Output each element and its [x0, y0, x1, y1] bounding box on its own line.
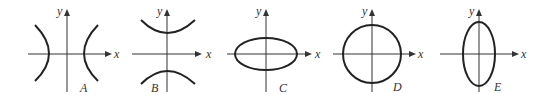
x-axis-arrow-icon [105, 51, 112, 57]
y-axis-arrow-icon [263, 9, 269, 16]
conic-sections-figure: x y A x y B x y C x y D [0, 0, 553, 100]
hyperbola-left-branch [35, 25, 49, 81]
x-axis-arrow-icon [512, 51, 519, 57]
hyperbola-right-branch [84, 25, 98, 81]
panel-label: C [279, 81, 288, 95]
x-axis-label: x [113, 47, 120, 61]
y-axis-arrow-icon [64, 9, 70, 16]
panel-label: D [392, 80, 402, 94]
y-axis-label: y [468, 4, 475, 18]
panel-c: x y C [227, 4, 321, 95]
x-axis-arrow-icon [195, 51, 202, 57]
panel-label: B [151, 81, 159, 95]
panel-e: x y E [440, 4, 527, 94]
x-axis-label: x [205, 47, 212, 61]
panel-label: A [79, 81, 88, 95]
x-axis-arrow-icon [409, 51, 416, 57]
y-axis-arrow-icon [476, 9, 482, 16]
x-axis-arrow-icon [305, 51, 312, 57]
y-axis-label: y [361, 4, 368, 18]
y-axis-label: y [255, 4, 262, 18]
panel-d: x y D [333, 4, 424, 94]
panel-b: x y B [132, 4, 212, 95]
y-axis-label: y [56, 4, 63, 18]
y-axis-label: y [156, 4, 163, 18]
panel-label: E [493, 80, 502, 94]
x-axis-label: x [314, 47, 321, 61]
hyperbola-bottom-branch [141, 71, 195, 84]
x-axis-label: x [417, 47, 424, 61]
y-axis-arrow-icon [164, 9, 170, 16]
hyperbola-top-branch [141, 20, 195, 33]
y-axis-arrow-icon [369, 9, 375, 16]
panel-a: x y A [28, 4, 120, 95]
x-axis-label: x [520, 47, 527, 61]
